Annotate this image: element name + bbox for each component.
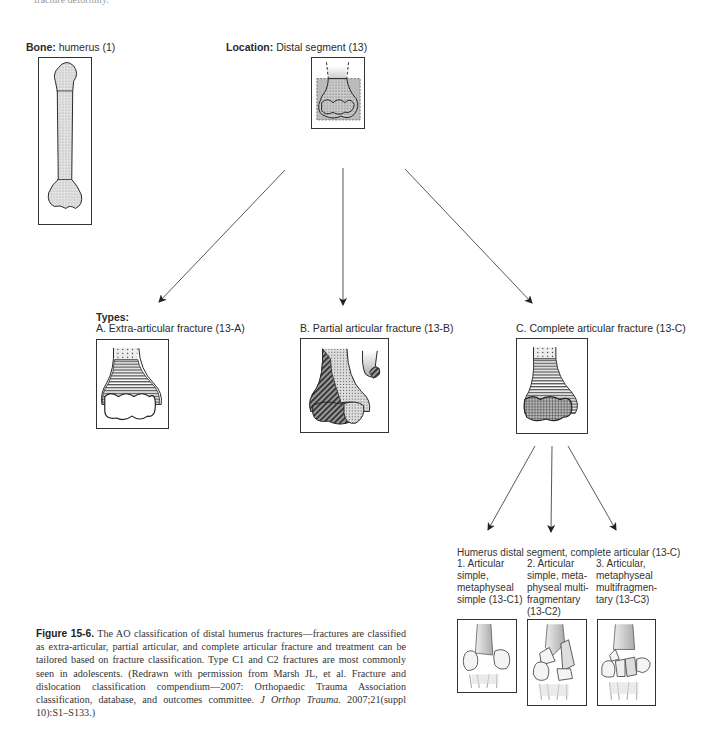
bone-label-key: Bone: [26, 41, 56, 53]
location-label-value: Distal segment (13) [273, 41, 367, 53]
humerus-bone-icon [39, 58, 91, 224]
subtype-c1-figure [457, 619, 517, 693]
type-a-figure [96, 339, 169, 429]
cut-off-text: fracture deformity. [34, 0, 109, 5]
type-c-figure [516, 338, 588, 434]
arrow-to-c1 [488, 446, 535, 530]
extra-articular-fracture-icon [97, 340, 168, 428]
humerus-bone-figure [38, 57, 92, 225]
c1-fracture-xray-icon [458, 620, 516, 692]
subtype-c3-figure [597, 619, 656, 706]
figure-number: Figure 15-6. [36, 628, 94, 639]
distal-segment-figure [311, 57, 365, 129]
subtype-c2-label: 2. Articular simple, meta- physeal multi… [527, 558, 589, 618]
partial-articular-fracture-icon [301, 339, 388, 432]
arrow-to-c2 [551, 446, 552, 532]
journal-name: J Orthop Trauma. [260, 694, 341, 705]
c3-fracture-xray-icon [598, 620, 655, 705]
arrow-to-c3 [568, 446, 616, 530]
location-label: Location: Distal segment (13) [226, 41, 367, 53]
arrow-to-type-c [405, 169, 532, 303]
subtype-c2-figure [527, 619, 587, 706]
type-c-label: C. Complete articular fracture (13-C) [516, 322, 686, 334]
complete-articular-fracture-icon [517, 339, 587, 433]
figure-caption: Figure 15-6. The AO classification of di… [36, 627, 406, 719]
bone-label: Bone: humerus (1) [26, 41, 115, 53]
type-b-figure [300, 338, 389, 433]
type-b-label: B. Partial articular fracture (13-B) [300, 322, 453, 334]
distal-segment-icon [312, 58, 364, 128]
subtype-c1-label: 1. Articular simple, metaphyseal simple … [457, 558, 523, 606]
bone-label-value: humerus (1) [56, 41, 116, 53]
type-a-label: A. Extra-articular fracture (13-A) [96, 322, 245, 334]
location-label-key: Location: [226, 41, 273, 53]
arrow-to-type-a [159, 170, 285, 302]
subtype-c3-label: 3. Articular, metaphyseal multifragmen- … [596, 558, 657, 606]
c2-fracture-xray-icon [528, 620, 586, 705]
